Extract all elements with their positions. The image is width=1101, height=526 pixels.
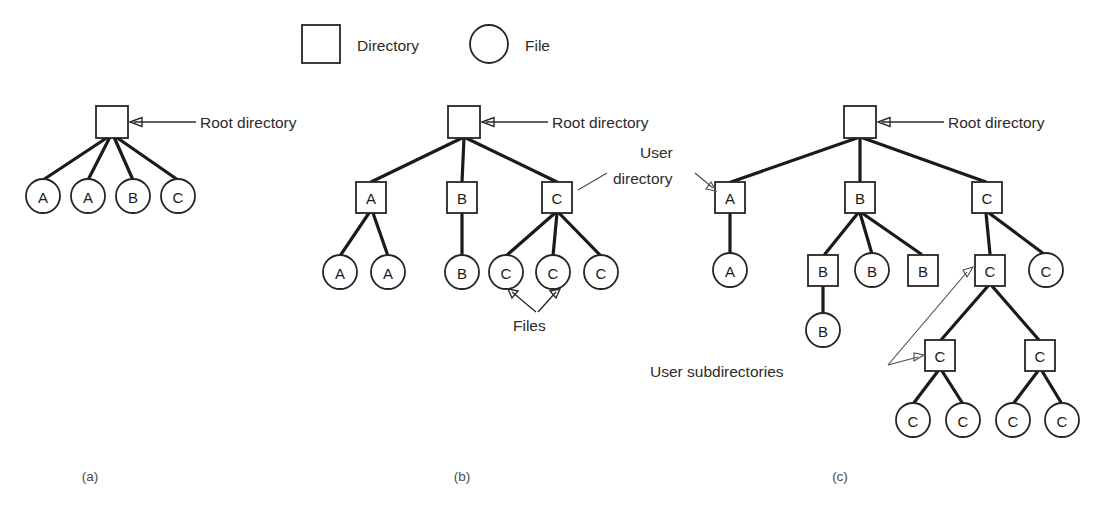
- node-b-file-c2[interactable]: C: [536, 255, 570, 289]
- node-c-file-a1[interactable]: A: [713, 253, 747, 287]
- directory-swatch-square: [302, 25, 340, 63]
- node-label: C: [982, 190, 993, 207]
- figure-canvas: Directory File A: [0, 0, 1101, 526]
- edge-dir-c-to-subdir-c1: [986, 213, 990, 254]
- node-label: A: [335, 265, 345, 282]
- node-c-subdir-b3[interactable]: B: [908, 255, 938, 286]
- annotation-files: Files: [508, 289, 560, 334]
- edge-dir-a-to-file-a1: [340, 213, 369, 256]
- annotation-label-root-directory: Root directory: [200, 114, 297, 131]
- edge-subdir-c1a-to-file-c1a1: [913, 371, 938, 404]
- node-label: C: [552, 190, 563, 207]
- node-b-dir-b[interactable]: B: [447, 182, 477, 213]
- legend-label-file: File: [525, 37, 550, 54]
- annotation-root-directory-b: Root directory: [482, 114, 649, 131]
- node-label: C: [173, 189, 184, 206]
- node-c-subdir-c1[interactable]: C: [975, 255, 1005, 286]
- node-label: B: [855, 190, 865, 207]
- node-label: A: [725, 190, 735, 207]
- node-label: C: [548, 265, 559, 282]
- edge-dir-a-to-file-a2: [373, 213, 388, 256]
- node-c-subdir-c1a[interactable]: C: [925, 340, 955, 371]
- legend-item-file: File: [470, 25, 550, 63]
- annotation-label-root-directory: Root directory: [948, 114, 1045, 131]
- legend-label-directory: Directory: [357, 37, 419, 54]
- node-c-file-c1a1[interactable]: C: [896, 403, 930, 437]
- edge-root-to-dir-b: [462, 138, 464, 182]
- node-label: B: [818, 263, 828, 280]
- node-c-file-b2[interactable]: B: [855, 253, 889, 287]
- node-label: B: [867, 263, 877, 280]
- annotation-root-directory-a: Root directory: [130, 114, 297, 131]
- node-label: A: [383, 265, 393, 282]
- caption-b: (b): [454, 469, 471, 484]
- node-label: B: [128, 189, 138, 206]
- node-c-dir-c[interactable]: C: [972, 182, 1002, 213]
- legend-item-directory: Directory: [302, 25, 419, 63]
- node-label: B: [457, 190, 467, 207]
- diagram-a: A A B C Root directory: [26, 106, 297, 484]
- node-b-file-c3[interactable]: C: [584, 255, 618, 289]
- edge-dir-c-to-file-c1: [506, 213, 555, 256]
- node-label: A: [38, 189, 48, 206]
- directory-structure-diagram: Directory File A: [0, 0, 1101, 526]
- node-label: C: [958, 413, 969, 430]
- edge-subdir-c1-to-subdir-c1b: [992, 286, 1039, 340]
- edge-dir-c-to-file-c2: [553, 213, 557, 256]
- node-label: B: [918, 263, 928, 280]
- edge-subdir-c1a-to-file-c1a2: [942, 371, 963, 404]
- node-b-file-a1[interactable]: A: [323, 255, 357, 289]
- node-b-file-b1[interactable]: B: [445, 255, 479, 289]
- node-a-file-c1[interactable]: C: [161, 179, 195, 213]
- edge-root-to-dir-a: [371, 138, 462, 182]
- annotation-label-user-subdirectories: User subdirectories: [650, 363, 784, 380]
- node-b-dir-c[interactable]: C: [542, 182, 572, 213]
- diagram-b: A B C A A: [323, 106, 649, 484]
- node-c-file-b1a[interactable]: B: [806, 313, 840, 347]
- node-c-root-directory[interactable]: [844, 106, 876, 138]
- node-c-file-c1b2[interactable]: C: [1045, 403, 1079, 437]
- legend: Directory File: [302, 25, 550, 63]
- node-label: C: [1035, 348, 1046, 365]
- caption-a: (a): [82, 469, 99, 484]
- node-b-root-directory[interactable]: [448, 106, 480, 138]
- annotation-label-root-directory: Root directory: [552, 114, 649, 131]
- node-label: C: [1008, 413, 1019, 430]
- annotation-user-directory: User directory: [578, 144, 716, 192]
- node-a-file-a1[interactable]: A: [26, 179, 60, 213]
- node-label: C: [935, 348, 946, 365]
- node-label: C: [908, 413, 919, 430]
- node-c-file-c2[interactable]: C: [1029, 253, 1063, 287]
- node-a-root-directory[interactable]: [96, 106, 128, 138]
- node-c-subdir-b1[interactable]: B: [808, 255, 838, 286]
- node-label: C: [1041, 263, 1052, 280]
- edge-dir-c-to-file-c2: [989, 213, 1044, 254]
- node-label: B: [818, 323, 828, 340]
- node-a-file-a2[interactable]: A: [71, 179, 105, 213]
- annotation-leader-line-to-b: [578, 173, 607, 190]
- node-label: A: [725, 263, 735, 280]
- arrowhead-icon: [914, 353, 924, 361]
- node-b-dir-a[interactable]: A: [356, 182, 386, 213]
- node-c-file-c1a2[interactable]: C: [946, 403, 980, 437]
- annotation-label-user-directory-line1: User: [640, 144, 673, 161]
- node-a-file-b1[interactable]: B: [116, 179, 150, 213]
- file-swatch-circle: [470, 25, 508, 63]
- diagram-b-nodes: A B C A A: [323, 106, 618, 289]
- annotation-root-directory-c: Root directory: [878, 114, 1045, 131]
- node-label: B: [457, 265, 467, 282]
- node-b-file-a2[interactable]: A: [371, 255, 405, 289]
- edge-dir-c-to-file-c3: [559, 213, 601, 256]
- node-c-subdir-c1b[interactable]: C: [1025, 340, 1055, 371]
- edge-root-to-file-c1: [116, 137, 178, 180]
- diagram-c: A B C A B: [578, 106, 1079, 484]
- node-c-file-c1b1[interactable]: C: [996, 403, 1030, 437]
- node-label: C: [985, 263, 996, 280]
- edge-root-to-dir-a: [731, 138, 857, 182]
- annotation-label-user-directory-line2: directory: [613, 170, 673, 187]
- node-c-dir-a[interactable]: A: [715, 182, 745, 213]
- annotation-label-files: Files: [513, 317, 546, 334]
- node-c-dir-b[interactable]: B: [845, 182, 875, 213]
- node-b-file-c1[interactable]: C: [489, 255, 523, 289]
- diagram-a-edges: [43, 137, 178, 180]
